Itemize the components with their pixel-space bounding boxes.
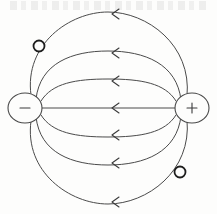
field-line-canvas xyxy=(0,0,217,214)
arrow-head-inner-top xyxy=(112,76,119,86)
field-line-mid-top xyxy=(36,51,181,100)
negative-charge xyxy=(8,93,42,123)
arrow-head-mid-bottom xyxy=(112,158,119,168)
arrow-head-mid-top xyxy=(112,48,119,58)
positive-charge xyxy=(175,93,209,123)
arrow-head-outer-bottom xyxy=(112,197,119,207)
arrow-head-outer-top xyxy=(112,9,119,19)
field-lines-group xyxy=(30,12,187,204)
test-charge-lower-right xyxy=(175,167,186,178)
test-charge-upper-left xyxy=(34,41,45,52)
electric-dipole-field-diagram xyxy=(0,0,217,214)
field-line-inner-bottom xyxy=(41,115,176,137)
arrow-head-inner-bottom xyxy=(112,130,119,140)
field-line-outer-top xyxy=(30,12,187,96)
field-line-mid-bottom xyxy=(36,116,181,165)
field-line-outer-bottom xyxy=(30,120,187,204)
field-line-inner-top xyxy=(41,79,176,101)
